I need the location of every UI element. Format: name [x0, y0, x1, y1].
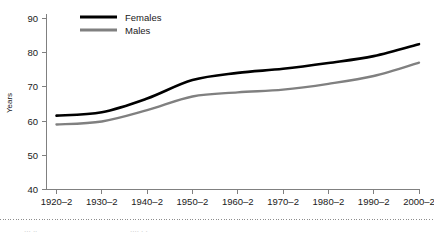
y-tick-label: 70 — [27, 81, 38, 92]
y-tick-label: 80 — [27, 47, 38, 58]
x-tick-label: 1980–2 — [313, 196, 345, 207]
y-tick-label: 50 — [27, 150, 38, 161]
y-tick-marks — [42, 19, 47, 190]
y-tick-labels: 90 80 70 60 50 40 — [27, 13, 38, 195]
y-tick-label: 40 — [27, 184, 38, 195]
x-tick-label: 1960–2 — [222, 196, 254, 207]
legend-label-males: Males — [125, 25, 151, 36]
x-tick-label: 1940–2 — [131, 196, 163, 207]
plot-lines — [57, 44, 420, 124]
y-axis-title: Years — [5, 93, 14, 113]
svg-text:.... . .: .... . . — [130, 225, 148, 232]
clipped-footer-text: ... .. .... . . — [24, 225, 148, 232]
y-tick-label: 90 — [27, 13, 38, 24]
svg-text:... ..: ... .. — [24, 225, 37, 232]
chart-figure: 90 80 70 60 50 40 Years 1920–2 1930–2 19… — [0, 0, 434, 232]
x-tick-labels: 1920–2 1930–2 1940–2 1950–2 1960–2 1970–… — [41, 196, 434, 207]
line-chart: 90 80 70 60 50 40 Years 1920–2 1930–2 19… — [0, 0, 434, 232]
x-tick-marks — [57, 190, 420, 195]
legend: Females Males — [80, 12, 162, 36]
x-tick-label: 1950–2 — [177, 196, 209, 207]
x-tick-label: 1970–2 — [267, 196, 299, 207]
series-line-females — [57, 44, 420, 115]
x-tick-label: 1930–2 — [86, 196, 118, 207]
legend-label-females: Females — [125, 12, 162, 23]
x-tick-label: 1990–2 — [358, 196, 390, 207]
x-tick-label: 1920–2 — [41, 196, 73, 207]
y-tick-label: 60 — [27, 116, 38, 127]
x-tick-label: 2000–2 — [403, 196, 434, 207]
